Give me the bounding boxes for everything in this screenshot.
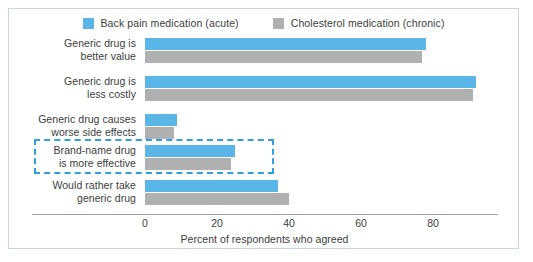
bar-group <box>145 76 520 104</box>
chart-frame: Back pain medication (acute) Cholesterol… <box>8 8 519 249</box>
chart-row-more-effective: Brand-name drug is more effective <box>9 144 520 174</box>
bar-group <box>145 145 520 173</box>
x-tick-60: 60 <box>355 217 367 229</box>
bar-group <box>145 180 520 208</box>
category-label-line1: Brand-name drug <box>54 144 136 156</box>
bar-blue-rather-generic[interactable] <box>145 180 278 192</box>
bar-gray-rather-generic[interactable] <box>145 193 289 205</box>
category-label-less-costly: Generic drug is less costly <box>21 75 136 101</box>
chart-row-rather-generic: Would rather take generic drug <box>9 179 520 209</box>
bar-group <box>145 38 520 66</box>
bar-gray-better-value[interactable] <box>145 51 422 63</box>
category-label-better-value: Generic drug is better value <box>21 37 136 63</box>
x-tick-20: 20 <box>211 217 223 229</box>
chart-row-side-effects: Generic drug causes worse side effects <box>9 113 520 143</box>
x-tick-0: 0 <box>142 217 148 229</box>
bar-gray-more-effective[interactable] <box>145 158 231 170</box>
bar-blue-more-effective[interactable] <box>145 145 235 157</box>
category-label-more-effective: Brand-name drug is more effective <box>21 144 136 170</box>
bar-gray-less-costly[interactable] <box>145 89 473 101</box>
category-label-line2: better value <box>81 50 136 62</box>
x-axis-ticks: 0 20 40 60 80 <box>9 217 520 231</box>
chart-row-less-costly: Generic drug is less costly <box>9 75 520 105</box>
x-axis-title: Percent of respondents who agreed <box>9 233 520 245</box>
category-label-line2: worse side effects <box>51 126 136 138</box>
x-tick-80: 80 <box>427 217 439 229</box>
chart-row-better-value: Generic drug is better value <box>9 37 520 67</box>
category-label-line1: Generic drug is <box>64 37 136 49</box>
category-label-line2: generic drug <box>77 192 136 204</box>
category-label-line1: Generic drug causes <box>38 113 136 125</box>
plot-area: Generic drug is better value Generic dru… <box>9 9 520 250</box>
x-tick-40: 40 <box>283 217 295 229</box>
category-label-line1: Would rather take <box>52 179 136 191</box>
bar-blue-less-costly[interactable] <box>145 76 476 88</box>
category-label-line2: less costly <box>87 88 136 100</box>
bar-gray-side-effects[interactable] <box>145 127 174 139</box>
category-label-side-effects: Generic drug causes worse side effects <box>21 113 136 139</box>
bar-blue-better-value[interactable] <box>145 38 426 50</box>
category-label-line2: is more effective <box>59 157 136 169</box>
bar-blue-side-effects[interactable] <box>145 114 177 126</box>
bar-group <box>145 114 520 142</box>
category-label-line1: Generic drug is <box>64 75 136 87</box>
x-axis-line <box>32 214 498 215</box>
category-label-rather-generic: Would rather take generic drug <box>21 179 136 205</box>
